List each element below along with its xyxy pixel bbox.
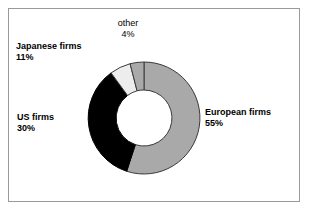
slice-label-other-name: other <box>118 18 139 28</box>
slice-label-us-firms: US firms 30% <box>17 112 79 134</box>
donut-slices <box>88 62 200 174</box>
slice-label-us-firms-value: 30% <box>17 123 79 134</box>
chart-figure: European firms 55% US firms 30% Japanese… <box>0 0 311 216</box>
slice-label-japanese-firms-value: 11% <box>16 52 94 63</box>
slice-label-other-value: 4% <box>105 29 151 40</box>
slice-label-japanese-firms: Japanese firms 11% <box>16 41 94 63</box>
slice-label-european-firms: European firms 55% <box>205 107 271 129</box>
slice-label-european-firms-value: 55% <box>205 118 271 129</box>
slice-label-japanese-firms-name: Japanese firms <box>16 41 82 51</box>
slice-label-us-firms-name: US firms <box>17 112 54 122</box>
slice-label-european-firms-name: European firms <box>205 107 271 117</box>
slice-label-other: other 4% <box>105 18 151 40</box>
